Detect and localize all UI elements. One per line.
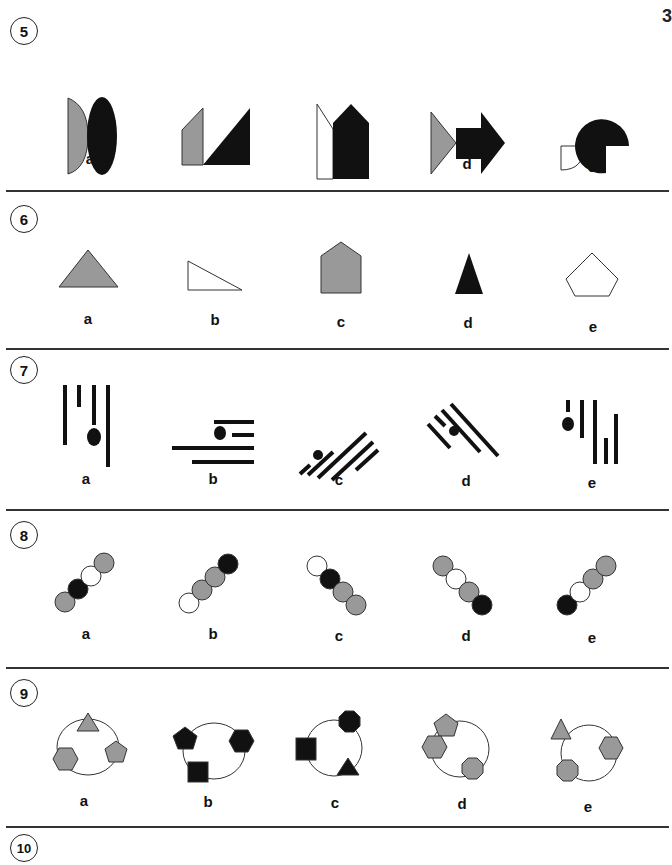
option-7d-figure[interactable] [428,404,498,474]
option-label: c [329,471,349,488]
question-9: 9 a b c d e [0,669,669,829]
option-6d-figure[interactable] [454,252,486,296]
option-8e-figure[interactable] [556,555,618,617]
option-label: e [582,474,602,491]
option-label: b [203,625,223,642]
option-6e-figure[interactable] [565,252,621,298]
option-label: b [198,793,218,810]
option-label: b [205,311,225,328]
option-label: e [583,318,603,335]
question-7: 7 a b c d e [0,350,669,510]
option-label: b [207,150,227,167]
option-6b-figure[interactable] [187,260,245,292]
option-9a-figure[interactable] [46,711,126,786]
option-9e-figure[interactable] [551,719,626,791]
question-5: 5 a b c d e [0,0,669,195]
option-7a-figure[interactable] [60,385,120,470]
question-number: 10 [10,834,38,862]
question-10: 10 [0,828,669,865]
option-label: d [456,472,476,489]
question-number: 9 [10,679,38,707]
option-9b-figure[interactable] [170,721,255,796]
question-number: 6 [10,205,38,233]
option-8b-figure[interactable] [178,553,240,615]
option-label: a [80,150,100,167]
option-5c-figure[interactable] [316,103,376,183]
option-8a-figure[interactable] [54,553,116,615]
option-7e-figure[interactable] [560,400,620,470]
option-label: c [331,313,351,330]
option-label: a [76,470,96,487]
question-6: 6 a b c d e [0,192,669,352]
option-label: d [458,314,478,331]
option-8c-figure[interactable] [306,555,368,617]
option-label: b [203,470,223,487]
option-label: e [578,798,598,815]
question-number: 5 [10,17,38,45]
option-label: a [74,792,94,809]
option-label: d [457,155,477,172]
question-number: 7 [10,356,38,384]
option-6c-figure[interactable] [320,241,364,295]
option-label: e [582,629,602,646]
option-9d-figure[interactable] [422,714,497,786]
option-label: d [456,627,476,644]
option-label: c [329,627,349,644]
option-label: c [325,794,345,811]
option-label: c [331,153,351,170]
option-label: e [582,158,602,175]
option-7b-figure[interactable] [172,420,257,465]
option-label: d [452,795,472,812]
option-9c-figure[interactable] [296,711,368,786]
option-8d-figure[interactable] [432,555,494,617]
option-label: a [76,625,96,642]
option-6a-figure[interactable] [58,249,120,289]
question-8: 8 a b c d e [0,511,669,669]
option-label: a [78,310,98,327]
question-number: 8 [10,521,38,549]
